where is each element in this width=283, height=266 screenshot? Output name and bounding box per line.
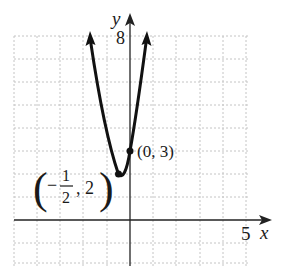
vertex-minus-sign: − xyxy=(47,175,57,195)
y-tick-label: 8 xyxy=(116,28,125,48)
intercept-point xyxy=(127,148,134,155)
y-axis-label: y xyxy=(110,8,121,29)
vertex-right-paren: ) xyxy=(99,164,114,213)
vertex-label: ( − 1 2 , 2 ) xyxy=(33,164,114,213)
x-axis-label: x xyxy=(259,222,269,243)
vertex-left-paren: ( xyxy=(33,164,48,213)
vertex-point xyxy=(115,171,122,178)
intercept-label: (0, 3) xyxy=(137,142,174,161)
x-tick-label: 5 xyxy=(241,223,251,244)
vertex-denominator: 2 xyxy=(62,189,70,206)
graph-figure: y 8 5 x (0, 3) ( − 1 2 , 2 ) xyxy=(0,0,283,266)
vertex-numerator: 1 xyxy=(62,167,70,184)
vertex-coordinates-rest: , 2 xyxy=(76,178,94,198)
